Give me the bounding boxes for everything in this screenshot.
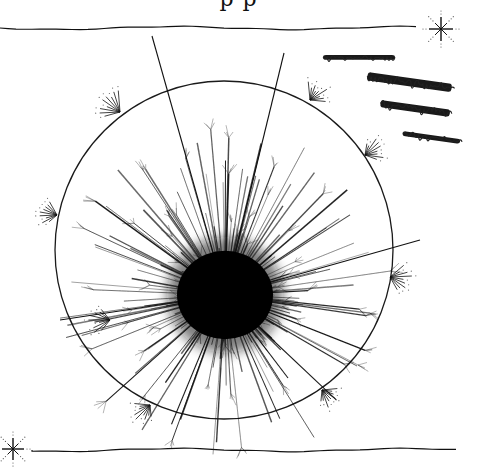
rim-sparkle-icon bbox=[320, 388, 342, 412]
top-right-sparkle-icon bbox=[422, 10, 459, 47]
dark-core bbox=[167, 237, 283, 353]
burst-artwork bbox=[0, 0, 477, 469]
rim-sparkle-icon bbox=[390, 262, 416, 294]
scribble-marks bbox=[323, 55, 462, 146]
scribble-1 bbox=[323, 55, 395, 61]
scribble-2 bbox=[367, 72, 456, 94]
rim-sparkle-icon bbox=[35, 198, 57, 226]
bottom-left-sparkle-icon bbox=[0, 431, 31, 466]
rim-sparkle-icon bbox=[95, 86, 120, 118]
illustration: p p bbox=[0, 0, 477, 469]
scribble-4 bbox=[402, 131, 462, 146]
cut-off-heading: p p bbox=[0, 0, 477, 11]
top-wavy-rule bbox=[0, 26, 416, 30]
rim-sparkle-icon bbox=[307, 77, 331, 102]
rim-sparkle-icon bbox=[365, 135, 388, 161]
scribble-3 bbox=[380, 100, 453, 119]
rim-sparkle-icon bbox=[130, 403, 152, 424]
